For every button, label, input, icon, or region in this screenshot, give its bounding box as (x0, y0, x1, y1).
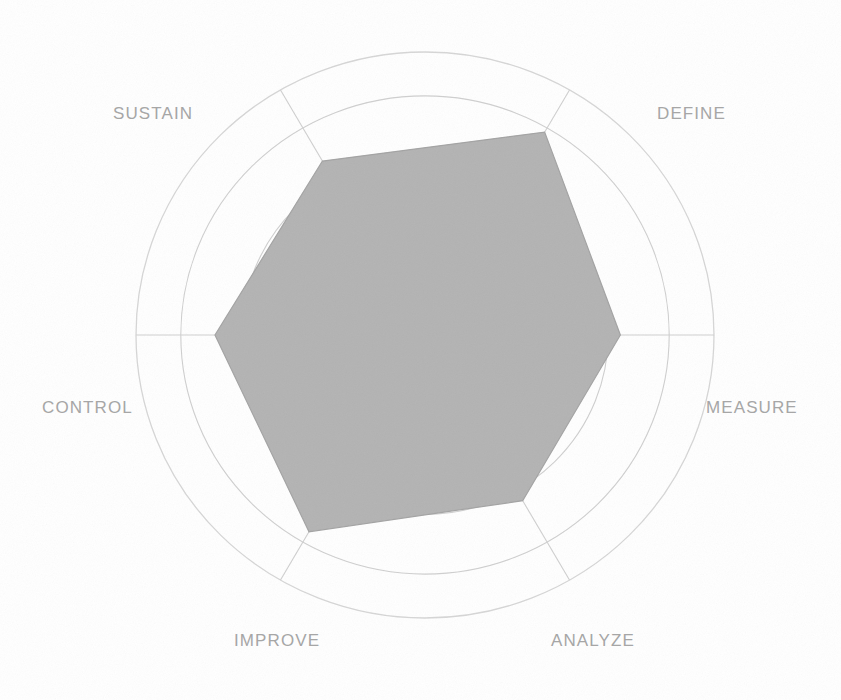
radar-data-series (215, 132, 620, 532)
axis-label-control: CONTROL (42, 398, 133, 418)
axis-label-sustain: SUSTAIN (113, 104, 193, 124)
axis-label-measure: MEASURE (706, 398, 798, 418)
radar-chart-figure: DEFINE MEASURE ANALYZE IMPROVE CONTROL S… (0, 0, 841, 700)
radar-series-maturity (215, 132, 620, 532)
axis-label-analyze: ANALYZE (551, 631, 635, 651)
axis-label-define: DEFINE (657, 104, 726, 124)
axis-label-improve: IMPROVE (234, 631, 320, 651)
